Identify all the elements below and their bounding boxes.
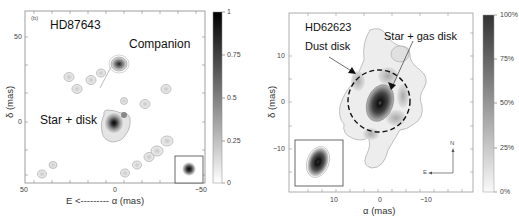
target-name-hd62623: HD62623 (305, 21, 351, 33)
y-tick-0: 0 (281, 98, 285, 105)
x-tick-50: 50 (20, 186, 28, 193)
x-tick-neg10: −10 (420, 196, 432, 203)
colorbar-tick-075: 0.75 (227, 51, 241, 58)
y-tick-neg10: −10 (273, 145, 285, 152)
x-axis-title: E <--------- α (mas) (66, 195, 144, 206)
x-tick-10: 10 (330, 196, 338, 203)
left-plot-graphic (0, 0, 260, 218)
colorbar-tick-025: 0.25 (227, 137, 241, 144)
target-name-hd87643: HD87643 (50, 18, 101, 32)
x-tick-0: 0 (378, 196, 382, 203)
star-gas-disk-label: Star + gas disk (384, 30, 457, 42)
right-panel-hd62623: HD62623 Dust disk Star + gas disk N E 10… (260, 0, 519, 218)
dust-disk-label: Dust disk (305, 40, 350, 52)
y-tick-0: 0 (18, 118, 22, 125)
x-tick-neg50: −50 (195, 186, 207, 193)
colorbar-tick-0: 0% (500, 188, 510, 195)
y-tick-50: 50 (14, 33, 22, 40)
left-panel-hd87643: (b) HD87643 Companion Star + disk 50 0 δ… (0, 0, 260, 218)
colorbar-tick-75: 75% (500, 55, 514, 62)
companion-label: Companion (129, 37, 190, 51)
colorbar-tick-0: 0 (227, 179, 231, 186)
x-tick-0: 0 (113, 186, 117, 193)
colorbar-tick-50: 50% (500, 99, 514, 106)
x-axis-title: α (mas) (363, 205, 395, 216)
panel-tag: (b) (31, 15, 38, 21)
star-disk-label: Star + disk (40, 113, 97, 127)
colorbar-tick-1: 1 (227, 8, 231, 15)
y-axis-title: δ (mas) (4, 86, 15, 118)
y-axis-title: δ (mas) (266, 86, 277, 118)
compass-north: N (450, 140, 454, 146)
colorbar-tick-25: 25% (500, 144, 514, 151)
colorbar-tick-100: 100% (500, 11, 518, 18)
y-tick-10: 10 (277, 52, 285, 59)
compass-east: E (423, 169, 427, 175)
colorbar-tick-05: 0.5 (227, 94, 237, 101)
